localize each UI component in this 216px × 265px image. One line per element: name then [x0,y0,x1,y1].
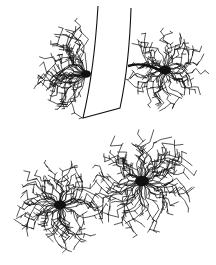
cell-soma [54,201,66,210]
illustration-svg [0,0,216,265]
astrocyte-illustration [0,0,216,265]
cell-soma [135,176,149,187]
cell-soma [81,70,91,78]
cell-soma [159,66,171,75]
background [0,0,216,265]
